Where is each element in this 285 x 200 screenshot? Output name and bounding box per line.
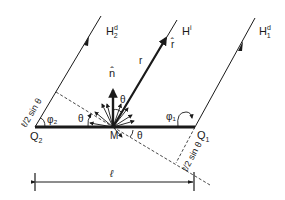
label-m: M (110, 130, 118, 141)
angle-arc-theta-left (88, 114, 91, 127)
label-phi1: φ₁ (166, 111, 176, 122)
ray-h1d-arrow-icon (238, 41, 243, 51)
label-q1: Q1 (197, 129, 210, 143)
label-r-hat: r̂ (170, 37, 175, 50)
label-hi: Hi (182, 24, 192, 37)
label-n-hat: n̂ (109, 66, 115, 79)
label-theta-right: θ (137, 130, 143, 141)
label-theta-left: θ (78, 113, 84, 124)
angle-arc-phi1 (178, 112, 192, 127)
diagram-canvas: Hd2 Hi Hd1 r̂ r n̂ θ θ θ φ₂ φ₁ Q2 M Q1 ℓ… (0, 0, 285, 200)
label-q2: Q2 (30, 130, 43, 144)
label-right-offset: ℓ/2 sin θ (180, 140, 204, 173)
label-phi2: φ₂ (47, 114, 57, 125)
label-left-offset: ℓ/2 sin θ (19, 96, 44, 129)
r-vector (113, 38, 166, 127)
label-h1d: Hd1 (259, 24, 271, 39)
ray-h2d-arrow-icon (84, 36, 89, 46)
label-h2d: Hd2 (106, 24, 118, 39)
label-r: r (139, 55, 143, 66)
label-theta-top: θ (120, 94, 126, 105)
angle-arc-theta-right (130, 130, 133, 137)
ray-h1d (195, 18, 255, 127)
label-length: ℓ (109, 168, 114, 179)
ray-h2d (35, 16, 101, 127)
